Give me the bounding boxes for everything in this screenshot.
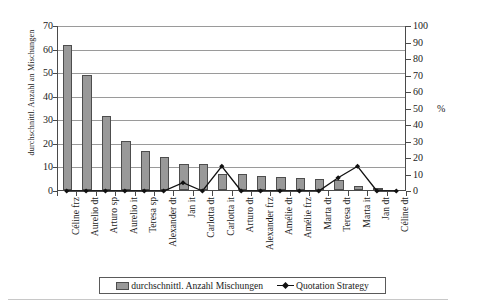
x-axis-label: Teresa dt [342, 197, 352, 232]
y-axis-right-tick [406, 175, 411, 176]
gridline [58, 26, 405, 27]
bar [354, 186, 363, 190]
x-axis-tick [76, 191, 77, 196]
y-axis-right-tick-label: 90 [413, 38, 423, 48]
x-axis-tick [387, 191, 388, 196]
y-axis-right-tick [406, 76, 411, 77]
x-axis-label: Carlotta it [226, 197, 236, 236]
y-axis-left-tick-label: 30 [43, 115, 53, 125]
y-axis-left-tick-label: 60 [43, 45, 53, 55]
x-axis-tick [270, 191, 271, 196]
y-axis-right-tick-label: 0 [413, 186, 418, 196]
line-marker-icon [277, 282, 294, 290]
y-axis-right-tick [406, 125, 411, 126]
x-axis-tick [115, 191, 116, 196]
x-axis-label: Carlotta dt [206, 197, 216, 238]
x-axis-label: Aurelio it [129, 197, 139, 234]
chart-container: durchschnittl. Anzahl an Mischungen 0102… [0, 0, 485, 306]
y-axis-right-tick [406, 26, 411, 27]
x-axis-tick [348, 191, 349, 196]
y-axis-left-tick-label: 50 [43, 68, 53, 78]
x-axis-tick [251, 191, 252, 196]
x-axis-label: Marta dt [323, 197, 333, 230]
y-axis-right-tick-label: 10 [413, 170, 423, 180]
y-axis-right-tick [406, 158, 411, 159]
bar [179, 164, 188, 190]
bar [199, 164, 208, 190]
y-axis-left-tick [53, 144, 57, 145]
x-axis-label: Céline frz [71, 197, 81, 235]
bar [334, 180, 343, 190]
bar [102, 116, 111, 190]
bar [141, 151, 150, 190]
gridline [58, 50, 405, 51]
legend-item-bars: durchschnittl. Anzahl Mischungen [116, 281, 263, 291]
y-axis-right-tick-label: 70 [413, 71, 423, 81]
y-axis-left-tick [53, 50, 57, 51]
y-axis-right-tick [406, 92, 411, 93]
bar [296, 178, 305, 190]
y-axis-right-tick-label: 60 [413, 87, 423, 97]
bar [82, 75, 91, 190]
x-axis-label: Marta it [362, 197, 372, 228]
y-axis-left-tick-label: 20 [43, 139, 53, 149]
bar [160, 157, 169, 190]
y-axis-right-unit: % [437, 104, 445, 114]
y-axis-left-tick-label: 10 [43, 162, 53, 172]
y-axis-left-tick [53, 191, 57, 192]
y-axis-right-tick-label: 20 [413, 153, 423, 163]
y-axis-left-tick [53, 73, 57, 74]
x-axis-tick [367, 191, 368, 196]
bar [63, 45, 72, 190]
legend-label-line: Quotation Strategy [296, 281, 369, 291]
x-axis-tick [290, 191, 291, 196]
x-axis-label: Arturo dt [245, 197, 255, 232]
x-axis-label: Céline dt [400, 197, 410, 232]
bar-swatch-icon [116, 282, 129, 290]
plot-area [57, 26, 406, 191]
x-axis-labels: Céline frzAurelio dtArturo spAurelio itT… [57, 197, 406, 267]
x-axis-label: Amélie frz [303, 197, 313, 238]
bar [218, 174, 227, 190]
x-axis-label: Alexander dt [168, 197, 178, 247]
y-axis-left-tick [53, 26, 57, 27]
bar [276, 177, 285, 190]
bar [315, 179, 324, 190]
x-axis-tick [232, 191, 233, 196]
y-axis-right-tick-label: 50 [413, 104, 423, 114]
y-axis-right-tick-label: 80 [413, 54, 423, 64]
bar [257, 176, 266, 190]
gridline [58, 73, 405, 74]
y-axis-right-tick [406, 59, 411, 60]
x-axis-label: Jan it [187, 197, 197, 218]
gridline [58, 97, 405, 98]
x-axis-tick [154, 191, 155, 196]
y-axis-right-tick [406, 109, 411, 110]
legend-label-bars: durchschnittl. Anzahl Mischungen [131, 281, 263, 291]
bar [121, 141, 130, 190]
legend-item-line: Quotation Strategy [277, 281, 369, 291]
bar [373, 188, 382, 190]
y-axis-right-tick-label: 40 [413, 120, 423, 130]
x-axis-tick [96, 191, 97, 196]
x-axis-tick [193, 191, 194, 196]
chart-legend: durchschnittl. Anzahl Mischungen Quotati… [99, 277, 386, 294]
x-axis-tick [173, 191, 174, 196]
x-axis-label: Jan dt [381, 197, 391, 220]
y-axis-left-tick-label: 70 [43, 21, 53, 31]
x-axis-label: Arturo sp [109, 197, 119, 234]
page-rule [8, 299, 448, 300]
y-axis-left-labels: 010203040506070 [31, 26, 53, 191]
x-axis-tick [328, 191, 329, 196]
y-axis-left-tick [53, 97, 57, 98]
bar [238, 174, 247, 190]
y-axis-right-tick [406, 191, 411, 192]
x-axis-tick [309, 191, 310, 196]
x-axis-label: Amélie dt [284, 197, 294, 235]
y-axis-right-tick [406, 142, 411, 143]
x-axis-tick [212, 191, 213, 196]
y-axis-right-tick [406, 43, 411, 44]
x-axis-tick [57, 191, 58, 196]
x-axis-label: Aurelio dt [90, 197, 100, 236]
x-axis-ticks [57, 191, 406, 196]
